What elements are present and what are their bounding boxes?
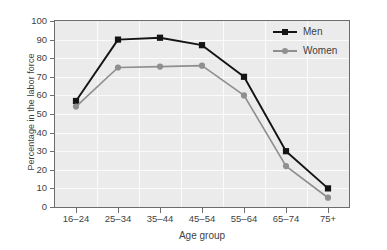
y-tick-label: 30 [7,145,47,156]
y-tick-mark [50,133,55,134]
y-tick-mark [50,188,55,189]
y-tick-label: 20 [7,164,47,175]
data-point-marker [115,64,121,70]
y-tick-mark [50,77,55,78]
data-point-marker [73,98,79,104]
legend-label: Men [303,26,322,37]
labor-force-line-chart: Percentage in the labor force 0102030405… [0,0,387,250]
right-axis-line [349,20,350,208]
legend-entry-men[interactable]: Men [273,22,347,41]
data-point-marker [199,42,205,48]
data-point-marker [157,63,163,69]
y-tick-label: 60 [7,89,47,100]
legend-swatch-women-icon [273,45,297,57]
y-tick-mark [50,58,55,59]
y-tick-mark [50,151,55,152]
y-tick-mark [50,95,55,96]
y-tick-mark [50,207,55,208]
x-axis-title: Age group [55,230,349,241]
series-line [76,66,328,198]
data-point-marker [283,163,289,169]
series-women [73,63,331,201]
y-tick-mark [50,40,55,41]
data-point-marker [73,103,79,109]
y-tick-mark [50,114,55,115]
data-point-marker [283,148,289,154]
data-point-marker [157,35,163,41]
legend-label: Women [303,45,337,56]
y-tick-label: 90 [7,34,47,45]
data-point-marker [325,195,331,201]
x-tick-label: 75+ [298,213,358,224]
y-tick-mark [50,170,55,171]
legend-marker-square-icon [282,29,288,35]
data-point-marker [199,63,205,69]
legend-swatch-men-icon [273,26,297,38]
y-tick-label: 40 [7,127,47,138]
top-axis-line [54,20,350,21]
y-tick-label: 0 [7,201,47,212]
data-point-marker [325,185,331,191]
y-tick-label: 70 [7,71,47,82]
y-tick-label: 100 [7,15,47,26]
legend-marker-circle-icon [282,48,288,54]
chart-legend: MenWomen [273,22,347,60]
data-point-marker [241,74,247,80]
y-tick-label: 80 [7,52,47,63]
y-tick-label: 50 [7,108,47,119]
legend-entry-women[interactable]: Women [273,41,347,60]
y-tick-mark [50,21,55,22]
series-line [76,38,328,189]
y-tick-label: 10 [7,182,47,193]
data-point-marker [241,92,247,98]
data-point-marker [115,37,121,43]
